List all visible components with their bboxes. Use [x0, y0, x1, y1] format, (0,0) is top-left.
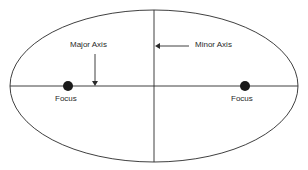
- focus-right-label: Focus: [231, 95, 253, 103]
- major-axis-arrow-icon: [92, 54, 98, 86]
- ellipse-diagram: [0, 0, 308, 170]
- major-axis-label: Major Axis: [70, 41, 107, 49]
- minor-axis-label: Minor Axis: [195, 41, 232, 49]
- minor-axis-arrow-icon: [155, 43, 189, 49]
- focus-right-dot: [240, 81, 250, 91]
- focus-left-dot: [63, 81, 73, 91]
- focus-left-label: Focus: [55, 95, 77, 103]
